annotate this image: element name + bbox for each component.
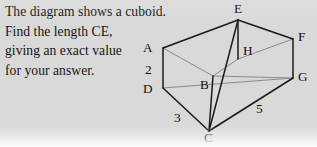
hidden-edge-AB	[163, 48, 213, 76]
vertex-label-A: A	[143, 41, 153, 54]
solid-edges-group	[163, 20, 293, 131]
measure-label-depth-3: 3	[174, 111, 181, 124]
vertex-label-B: B	[200, 78, 209, 91]
edge-DC	[163, 88, 209, 131]
vertex-label-G: G	[298, 70, 308, 83]
vertex-label-C: C	[204, 131, 213, 144]
edge-CG	[209, 78, 293, 131]
vertex-label-H: H	[243, 44, 253, 57]
vertex-label-E: E	[234, 2, 242, 15]
worksheet-page: The diagram shows a cuboid. Find the len…	[0, 0, 317, 147]
vertex-label-F: F	[298, 30, 305, 43]
cuboid-diagram: EFAHGBDC 235	[0, 0, 317, 147]
edge-AE	[163, 20, 238, 48]
measure-label-width-5: 5	[256, 102, 263, 115]
hidden-edge-DG	[163, 78, 293, 88]
cuboid-svg	[0, 0, 317, 147]
hidden-edges-group	[163, 39, 293, 88]
hidden-edge-BG	[213, 76, 293, 78]
vertex-label-D: D	[143, 82, 153, 95]
edge-EF	[238, 20, 293, 39]
measure-label-height-2: 2	[145, 63, 152, 76]
